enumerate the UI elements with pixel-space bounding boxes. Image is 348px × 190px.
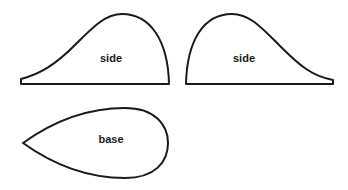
side-left-label: side	[100, 52, 122, 64]
base-label: base	[98, 133, 123, 145]
side-left-shape: side	[21, 14, 169, 84]
side-right-shape: side	[186, 14, 333, 84]
base-shape: base	[23, 108, 168, 178]
side-right-label: side	[233, 52, 255, 64]
pattern-diagram: side side base	[0, 0, 348, 190]
